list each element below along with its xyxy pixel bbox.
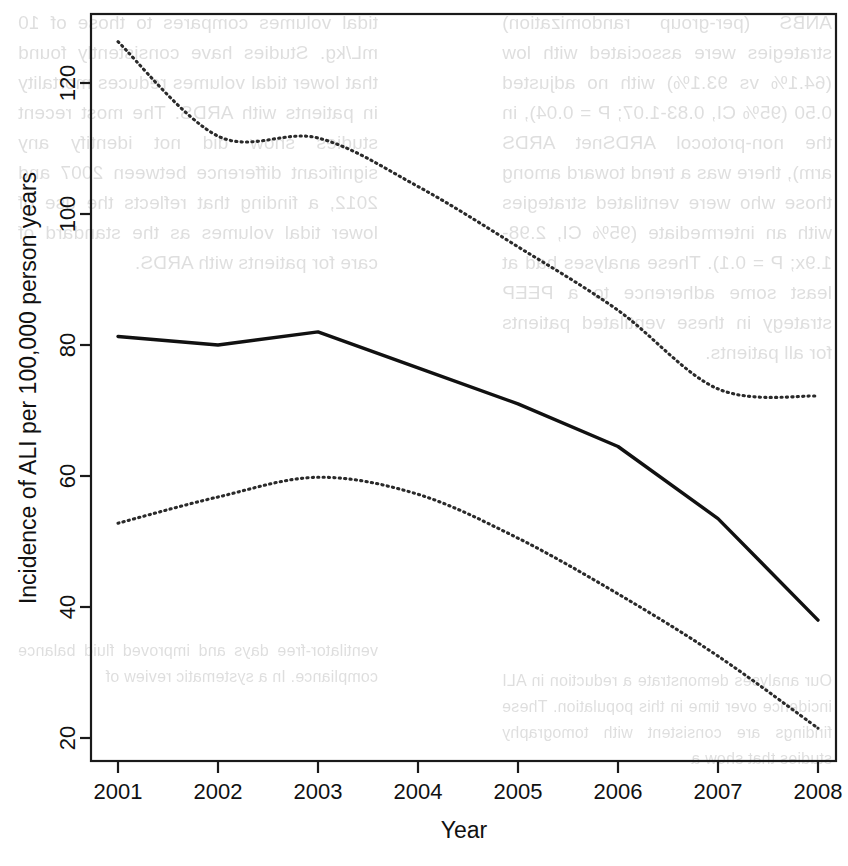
x-tick-label: 2001 xyxy=(94,779,143,804)
x-tick-label: 2003 xyxy=(294,779,343,804)
x-tick-label: 2006 xyxy=(594,779,643,804)
y-tick-label: 100 xyxy=(55,196,80,233)
x-tick-label: 2004 xyxy=(394,779,443,804)
y-tick-label: 80 xyxy=(55,333,80,357)
x-tick-label: 2002 xyxy=(194,779,243,804)
y-axis: 20406080100120 xyxy=(55,65,91,751)
y-tick-label: 20 xyxy=(55,726,80,750)
x-axis: 20012002200320042005200620072008 xyxy=(94,761,843,804)
ali-incidence-line-chart: 20406080100120 2001200220032004200520062… xyxy=(0,0,848,866)
y-tick-label: 40 xyxy=(55,595,80,619)
y-tick-label: 120 xyxy=(55,65,80,102)
y-axis-title: Incidence of ALI per 100,000 person year… xyxy=(15,172,41,604)
x-axis-title: Year xyxy=(441,817,488,843)
data-series-layer xyxy=(118,42,818,729)
x-tick-label: 2007 xyxy=(694,779,743,804)
x-tick-label: 2008 xyxy=(794,779,843,804)
chart-svg: 20406080100120 2001200220032004200520062… xyxy=(0,0,848,866)
series-line-solid xyxy=(118,332,818,620)
y-tick-label: 60 xyxy=(55,464,80,488)
x-tick-label: 2005 xyxy=(494,779,543,804)
